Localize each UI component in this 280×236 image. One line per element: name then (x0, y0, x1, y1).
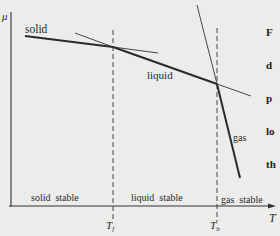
caption-line: p (266, 93, 280, 104)
x-axis-label: T (269, 211, 277, 225)
liquid-stable-region-label: liquid stable (131, 192, 183, 203)
caption-line: F (266, 27, 280, 38)
solid-stable-region-label: solid stable (31, 192, 79, 203)
phase-diagram: μ T solid liquid gas solid stable liquid… (0, 0, 280, 236)
freezing-temperature-subscript: f (112, 225, 115, 233)
liquid-curve-extension-right (217, 84, 251, 96)
boiling-temperature-subscript: b (216, 225, 220, 233)
caption-line: d (266, 60, 280, 71)
boiling-temperature-label: Tb (210, 219, 220, 233)
caption-line: lo (266, 126, 280, 137)
y-axis-label: μ (1, 10, 8, 22)
solid-curve-label: solid (25, 23, 48, 35)
truncated-caption-text: F d p lo th (266, 5, 280, 181)
gas-curve-extension (197, 5, 217, 84)
liquid-curve-label: liquid (147, 69, 173, 81)
gas-curve (217, 84, 240, 178)
gas-stable-region-label: gas stable (221, 194, 263, 205)
freezing-temperature-label: Tf (106, 219, 115, 233)
caption-line: th (266, 159, 280, 170)
solid-curve (25, 36, 113, 47)
x-axis-arrowhead (268, 204, 276, 209)
gas-curve-label: gas (233, 132, 246, 143)
